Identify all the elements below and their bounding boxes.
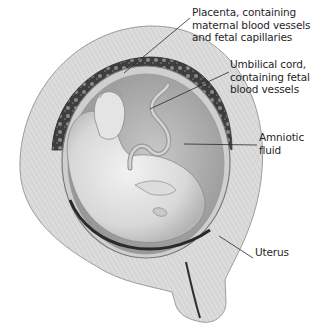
label-umbilical-cord: Umbilical cord, containing fetal blood v… — [230, 58, 310, 96]
label-uterus: Uterus — [255, 246, 289, 259]
label-amniotic-fluid: Amniotic fluid — [259, 131, 304, 156]
label-placenta: Placenta, containing maternal blood vess… — [192, 6, 310, 44]
fetus-in-uterus-illustration — [0, 0, 318, 328]
